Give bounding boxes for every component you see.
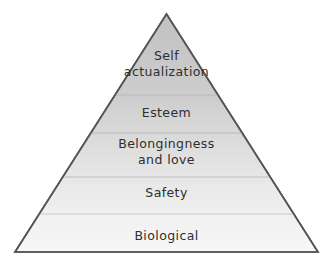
maslow-pyramid-diagram: Self actualization Esteem Belongingness … <box>0 0 333 266</box>
pyramid-graphic <box>0 0 333 266</box>
